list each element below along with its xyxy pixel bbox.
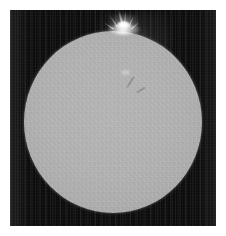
solar-photograph-figure [0,0,226,236]
prominence-spike [117,10,123,26]
disk-plage-feature [121,70,130,75]
prominence-spike [104,22,114,29]
photosphere-granulation-texture [24,31,202,213]
disk-filament-feature-secondary [136,87,146,94]
solar-disk-container [10,10,216,226]
prominence-spike [131,22,139,30]
prominence-spike [109,15,118,27]
plate-frame [10,10,216,226]
prominence-spike [128,16,134,27]
prominence-spike [124,11,126,26]
prominence-bright-core [117,21,130,29]
disk-filament-feature [126,76,135,88]
solar-disk [24,31,202,213]
